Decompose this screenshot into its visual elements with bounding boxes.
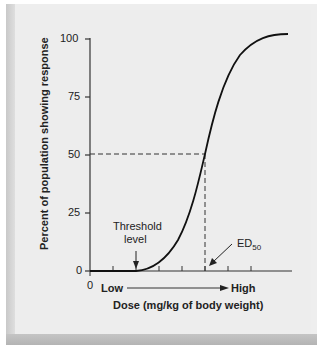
y-tick-label-100: 100 bbox=[60, 32, 78, 44]
x-axis-label: Dose (mg/kg of body weight) bbox=[113, 299, 263, 311]
x-high-label: High bbox=[231, 282, 255, 294]
y-tick-label-50: 50 bbox=[68, 148, 80, 160]
ed50-label: ED50 bbox=[237, 237, 261, 249]
y-tick-label-75: 75 bbox=[68, 90, 80, 102]
x-origin-label: 0 bbox=[87, 279, 93, 291]
threshold-label-line2: level bbox=[124, 233, 147, 245]
y-ticks bbox=[85, 39, 90, 271]
ed50-arrow-icon bbox=[209, 244, 232, 266]
dose-response-chart: Percent of population showing response bbox=[0, 0, 323, 349]
dose-response-curve bbox=[90, 34, 288, 271]
threshold-label-line1: Threshold bbox=[113, 220, 162, 232]
y-tick-label-25: 25 bbox=[68, 206, 80, 218]
y-tick-label-0: 0 bbox=[76, 264, 82, 276]
ed50-label-main: ED bbox=[237, 237, 252, 249]
y-axis-label: Percent of population showing response bbox=[38, 37, 50, 250]
dose-direction-arrow-icon bbox=[127, 285, 229, 291]
x-low-label: Low bbox=[101, 282, 123, 294]
threshold-arrow-icon bbox=[133, 251, 139, 269]
ed50-label-subscript: 50 bbox=[252, 243, 261, 252]
